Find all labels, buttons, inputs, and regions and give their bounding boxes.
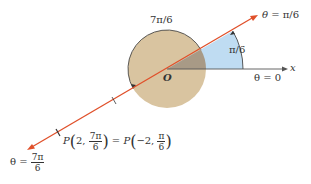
origin-label: O: [163, 72, 172, 83]
fraction-num-1: 7π: [89, 131, 103, 142]
polar-diagram: [0, 0, 311, 184]
ray-lower-label: θ = 7π6: [10, 152, 44, 173]
x-axis-label: x: [290, 62, 296, 73]
fraction-den-1: 6: [89, 142, 103, 152]
equals-sign: =: [112, 135, 120, 146]
arc-label: 7π/6: [150, 14, 173, 25]
lower-fraction-den: 6: [31, 163, 45, 173]
ray-upper-value: = π/6: [271, 9, 299, 20]
point-label: P(2, 7π6) = P(−2, π6): [63, 131, 172, 152]
x-axis-arrowhead-icon: [282, 67, 288, 72]
r-value-1: 2,: [76, 135, 86, 146]
theta-zero-label: θ = 0: [254, 72, 281, 83]
theta-symbol: θ: [262, 9, 268, 20]
ray-upper-label: θ = π/6: [262, 9, 299, 20]
theta-equals: θ =: [10, 156, 28, 167]
polar-line: [31, 18, 253, 148]
p-symbol: P: [63, 135, 70, 146]
r-value-2: −2,: [136, 135, 154, 146]
lower-arrowhead-icon: [27, 144, 35, 150]
lower-fraction-num: 7π: [31, 152, 45, 163]
angle-label: π/6: [229, 44, 245, 55]
